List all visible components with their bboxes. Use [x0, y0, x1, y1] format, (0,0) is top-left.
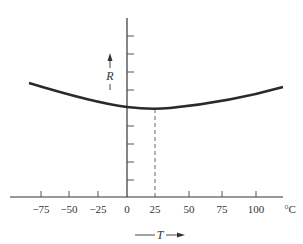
- x-axis-label: T: [157, 228, 165, 242]
- y-axis-title: R: [105, 53, 114, 90]
- x-tick-label: 25: [150, 203, 162, 215]
- resistance-temperature-chart: −75 −50 −25 0 25 50 75 100 °C R T: [0, 0, 303, 244]
- x-tick-labels: −75 −50 −25 0 25 50 75 100 °C: [32, 203, 295, 215]
- y-axis-label: R: [105, 69, 114, 83]
- x-tick-label: 50: [184, 203, 196, 215]
- x-tick-label: 0: [124, 203, 130, 215]
- x-tick-label: −50: [60, 203, 78, 215]
- x-tick-label: 75: [217, 203, 229, 215]
- x-tick-label: 100: [248, 203, 265, 215]
- x-tick-label: −75: [32, 203, 50, 215]
- arrow-up-icon: [108, 53, 113, 61]
- x-axis-title: T: [135, 228, 185, 242]
- arrow-right-icon: [177, 233, 185, 238]
- x-axis-ticks: [41, 191, 256, 197]
- x-unit-label: °C: [284, 203, 296, 215]
- resistance-curve: [29, 83, 283, 109]
- x-tick-label: −25: [89, 203, 107, 215]
